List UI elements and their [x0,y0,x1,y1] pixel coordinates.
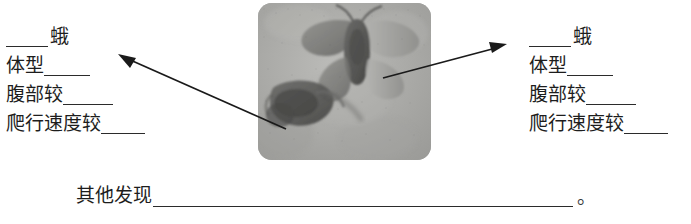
right-note-label-1: 蛾 [573,25,592,47]
left-note-line-3: 腹部较 [6,80,145,109]
right-note-label-4: 爬行速度较 [529,112,624,134]
other-findings-period: 。 [577,188,596,207]
blank-left-4[interactable] [101,114,145,134]
blank-right-3[interactable] [586,85,636,105]
other-findings-input[interactable] [153,186,573,207]
other-findings-label: 其他发现 [76,180,152,207]
other-findings-row: 其他发现。 [76,180,596,207]
moth-photo-artwork [258,3,431,160]
blank-left-3[interactable] [63,85,113,105]
right-note-line-3: 腹部较 [529,80,668,109]
right-note-line-1: 蛾 [529,22,668,51]
left-note-label-2: 体型 [6,54,44,76]
left-note-label-3: 腹部较 [6,83,63,105]
right-note-label-3: 腹部较 [529,83,586,105]
right-note-line-4: 爬行速度较 [529,109,668,138]
left-note-line-1: 蛾 [6,22,145,51]
left-note-label-1: 蛾 [50,25,69,47]
blank-left-1[interactable] [6,27,48,47]
blank-left-2[interactable] [44,56,90,76]
blank-right-4[interactable] [624,114,668,134]
left-specimen-notes: 蛾 体型 腹部较 爬行速度较 [6,22,145,138]
blank-right-1[interactable] [529,27,571,47]
right-note-line-2: 体型 [529,51,668,80]
left-note-line-4: 爬行速度较 [6,109,145,138]
right-note-label-2: 体型 [529,54,567,76]
left-note-line-2: 体型 [6,51,145,80]
right-specimen-notes: 蛾 体型 腹部较 爬行速度较 [529,22,668,138]
moth-specimen-photo [258,3,431,160]
blank-right-2[interactable] [567,56,613,76]
worksheet-page: 蛾 体型 腹部较 爬行速度较 蛾 体型 腹部较 爬行速度较 其他发现。 [0,0,691,224]
left-note-label-4: 爬行速度较 [6,112,101,134]
